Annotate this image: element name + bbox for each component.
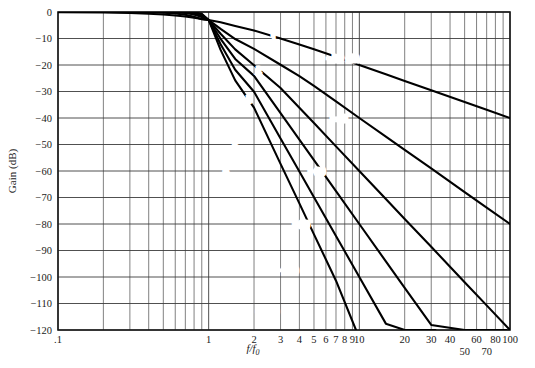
y-tick-label: −30 [36, 86, 52, 97]
x-tick-label: 50 [459, 346, 470, 357]
x-tick-label: 100 [502, 334, 518, 345]
x-tick-label: 80 [490, 334, 501, 345]
y-tick-label: −40 [36, 113, 52, 124]
curve-label-1: 1 [271, 32, 276, 43]
x-tick-label: .1 [54, 334, 62, 345]
x-tick-label: 40 [445, 334, 456, 345]
x-axis-title: f/f0 [246, 342, 259, 357]
y-axis-tick-labels: 0−10−20−30−40−50−60−70−80−90−100−110−120 [30, 7, 52, 336]
x-tick-label: 8 [342, 334, 347, 345]
y-tick-label: 0 [47, 7, 52, 18]
x-tick-label: 70 [481, 346, 492, 357]
x-tick-label: 10 [354, 334, 365, 345]
y-tick-label: −120 [30, 325, 52, 336]
x-tick-label: 6 [323, 334, 328, 345]
y-tick-label: −80 [36, 219, 52, 230]
curve-label-6: 6 [223, 166, 228, 177]
slope-annotation: −20 dB/decade [326, 52, 392, 64]
slope-annotation: −120 [256, 305, 279, 317]
y-tick-label: −100 [30, 272, 52, 283]
x-tick-label: 4 [297, 334, 303, 345]
x-tick-label: 1 [206, 334, 211, 345]
x-axis-tick-labels: .11234567891020304050607080100 [54, 334, 518, 357]
bode-plot-figure: .11234567891020304050607080100 0−10−20−3… [0, 0, 535, 368]
x-tick-label: 3 [278, 334, 283, 345]
slope-annotation: −60 [308, 165, 326, 177]
x-tick-label: 60 [471, 334, 482, 345]
curve-label-4: 4 [238, 119, 244, 130]
y-axis-title: Gain (dB) [6, 149, 19, 194]
y-tick-label: −60 [36, 166, 52, 177]
slope-annotation: −100 [275, 264, 298, 276]
slope-annotation: −40 [330, 112, 348, 124]
y-tick-label: −20 [36, 60, 52, 71]
x-tick-label: 30 [426, 334, 437, 345]
x-axis-title: f/f0 [246, 342, 259, 357]
y-tick-label: −10 [36, 33, 52, 44]
y-tick-label: −70 [36, 192, 52, 203]
x-tick-label: 5 [311, 334, 316, 345]
y-axis-title: Gain (dB) [6, 149, 19, 194]
curve-label-5: 5 [233, 140, 238, 151]
slope-annotation: −80 [292, 218, 310, 230]
y-tick-label: −90 [36, 245, 52, 256]
y-tick-label: −50 [36, 139, 52, 150]
x-tick-label: 7 [333, 334, 338, 345]
x-tick-label: 20 [399, 334, 410, 345]
curve-label-2: 2 [256, 65, 261, 76]
y-tick-label: −110 [31, 298, 52, 309]
bode-plot-svg: .11234567891020304050607080100 0−10−20−3… [0, 0, 535, 368]
curve-label-3: 3 [246, 94, 251, 105]
